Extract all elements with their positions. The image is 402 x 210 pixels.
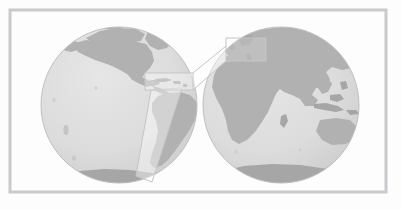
callout-rect-europe[interactable] <box>226 38 266 61</box>
world-globes-figure <box>0 0 402 210</box>
callout-rect-americas[interactable] <box>145 73 193 90</box>
landmass-pacific-speck-c <box>95 86 98 90</box>
landmass-pacific-speck-a <box>63 125 68 135</box>
landmass-pacific-speck-b <box>52 98 55 103</box>
landmass-ocean-speck-a <box>234 150 237 154</box>
landmass-ocean-speck-b <box>299 148 302 152</box>
figure-canvas <box>0 0 402 210</box>
landmass-pacific-speck-d <box>72 155 76 160</box>
